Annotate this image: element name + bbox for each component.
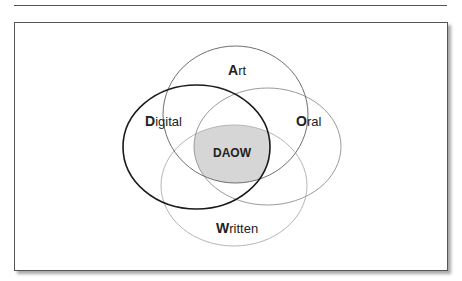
label-digital: Digital (145, 113, 182, 129)
label-art: Art (228, 62, 246, 78)
label-written: Written (216, 220, 258, 236)
label-oral: Oral (296, 113, 321, 129)
label-intersection: DAOW (213, 146, 252, 160)
venn-diagram: Art Digital Oral Written DAOW (0, 0, 462, 281)
